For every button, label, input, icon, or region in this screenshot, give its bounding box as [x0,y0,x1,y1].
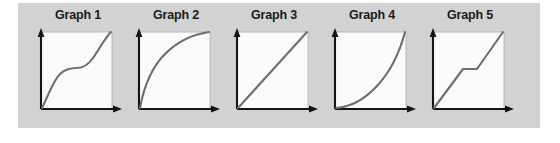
graph-title-5: Graph 5 [414,8,526,22]
graph-plot-3 [218,24,330,122]
graph-title-3: Graph 3 [218,8,330,22]
graph-title-1: Graph 1 [22,8,134,22]
plot-background-5 [433,32,504,109]
graph-cell-3: Graph 3 [218,0,330,125]
graph-plot-5 [414,24,526,122]
graph-comparison-figure: Graph 1 Graph 2 Graph 3 [0,0,560,143]
graph-cell-4: Graph 4 [316,0,428,125]
plot-background-2 [139,32,210,109]
graph-plot-2 [120,24,232,122]
x-axis-arrow-5 [505,106,514,113]
graph-title-4: Graph 4 [316,8,428,22]
graph-plot-1 [22,24,134,122]
graph-title-2: Graph 2 [120,8,232,22]
graph-cell-2: Graph 2 [120,0,232,125]
graph-cell-5: Graph 5 [414,0,526,125]
graph-cell-1: Graph 1 [22,0,134,125]
plot-background-4 [335,32,406,109]
graph-plot-4 [316,24,428,122]
